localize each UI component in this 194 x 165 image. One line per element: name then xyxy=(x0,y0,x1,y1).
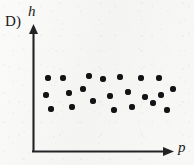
axes-lines xyxy=(0,0,194,165)
y-axis-arrowhead xyxy=(29,24,38,34)
scatter-plot-figure: D) h p xyxy=(0,0,194,165)
x-axis-arrowhead xyxy=(163,147,174,156)
